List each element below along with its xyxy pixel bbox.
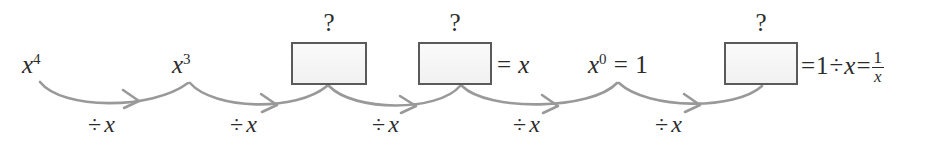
equals-sign-2: =	[855, 52, 871, 79]
variable-x: x	[529, 111, 540, 137]
node-x0-exponent: 0	[599, 51, 607, 67]
division-sign: ÷	[829, 52, 845, 79]
answer-box-1[interactable]	[291, 42, 367, 85]
fraction-denominator: x	[872, 68, 885, 86]
numeral-one: 1	[816, 52, 829, 79]
arrow-label-1: ÷x	[88, 112, 115, 136]
question-mark-box-2: ?	[443, 10, 467, 35]
equals-sign: =	[496, 51, 512, 78]
question-mark-box-1: ?	[317, 10, 341, 35]
node-x3-base: x	[172, 51, 183, 78]
node-x4-exponent: 4	[33, 51, 41, 67]
division-sign: ÷	[230, 111, 246, 137]
node-x0-equals-1: x0 = 1	[588, 52, 648, 77]
division-sign: ÷	[372, 111, 388, 137]
node-x3-exponent: 3	[183, 51, 191, 67]
equals-value: x	[518, 51, 529, 78]
division-sign: ÷	[655, 111, 671, 137]
arrow-label-3: ÷x	[372, 112, 399, 136]
arrow-label-4: ÷x	[513, 112, 540, 136]
answer-box-3-equation: =1÷x=1x	[800, 50, 884, 87]
equals-sign: =	[800, 52, 816, 79]
arrow-head-1	[123, 90, 139, 108]
variable-x: x	[388, 111, 399, 137]
arrow-curve-4	[462, 83, 617, 104]
arrow-curve-1	[40, 82, 188, 103]
node-x3: x3	[172, 52, 191, 77]
answer-box-2-equation: = x	[496, 52, 529, 77]
arrow-curve-5	[619, 83, 762, 104]
answer-box-2[interactable]	[418, 42, 492, 85]
variable-x: x	[671, 111, 682, 137]
division-sign: ÷	[88, 111, 104, 137]
question-mark-box-3: ?	[749, 10, 773, 35]
answer-box-3[interactable]	[724, 42, 798, 85]
powers-of-x-diagram: x4 x3 ? ? = x x0 = 1 ? =1÷x=1x ÷x ÷x ÷x …	[0, 0, 938, 146]
variable-x: x	[844, 52, 855, 79]
node-x0-base: x	[588, 51, 599, 78]
variable-x: x	[246, 111, 257, 137]
variable-x: x	[104, 111, 115, 137]
fraction-numerator: 1	[872, 49, 885, 67]
arrow-label-2: ÷x	[230, 112, 257, 136]
node-x4: x4	[22, 52, 41, 77]
arrow-curve-2	[190, 83, 327, 104]
node-x4-base: x	[22, 51, 33, 78]
arrow-label-5: ÷x	[655, 112, 682, 136]
division-sign: ÷	[513, 111, 529, 137]
fraction-one-over-x: 1x	[872, 49, 885, 86]
node-x0-value: 1	[635, 51, 648, 78]
arrow-curve-3	[329, 86, 460, 106]
equals-sign: =	[613, 51, 629, 78]
